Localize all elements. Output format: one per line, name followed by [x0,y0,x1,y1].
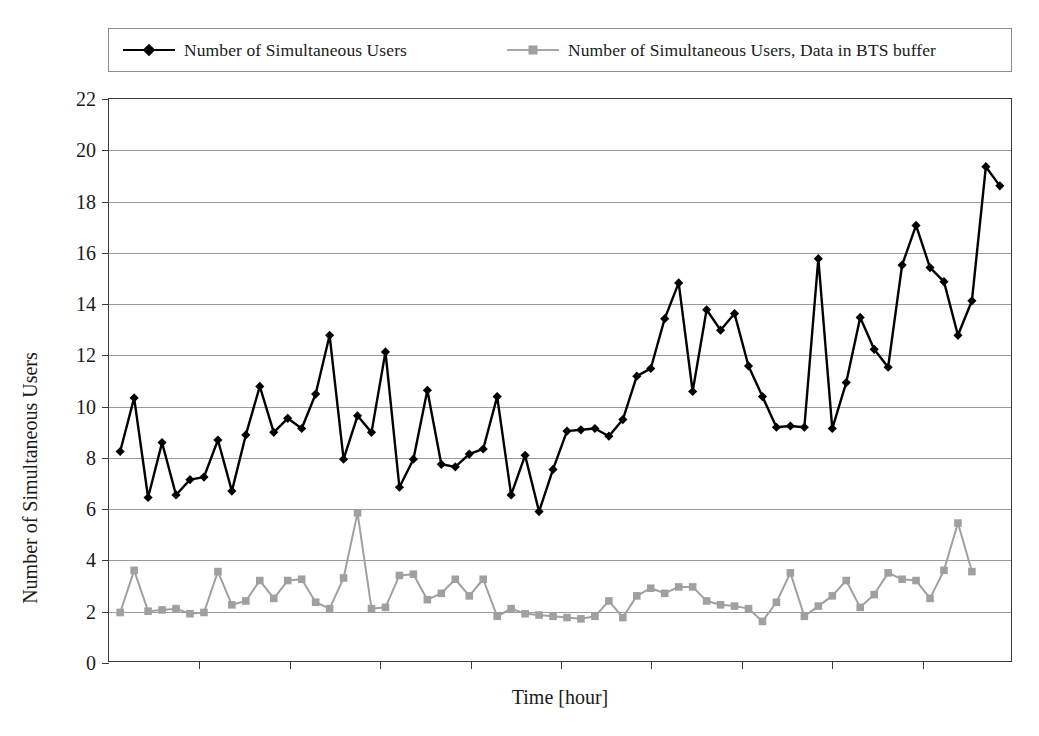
data-point-marker [897,260,906,269]
series-line [120,513,972,622]
data-point-marker [242,597,250,605]
data-point-marker [619,614,627,622]
data-point-marker [856,313,865,322]
y-tick-mark [102,612,109,613]
x-axis-title: Time [hour] [108,686,1012,709]
y-tick-label: 22 [76,88,96,111]
data-point-marker [130,393,139,402]
legend-entry-simultaneous-users: Number of Simultaneous Users [123,29,407,71]
legend-label-bts-buffer: Number of Simultaneous Users, Data in BT… [568,40,936,61]
data-point-marker [912,577,920,585]
data-point-marker [227,487,236,496]
y-tick-mark [102,253,109,254]
data-point-marker [493,613,501,621]
data-point-marker [158,606,166,614]
y-tick-mark [102,304,109,305]
y-tick-label: 6 [86,498,96,521]
data-point-marker [745,605,753,613]
data-point-marker [660,314,669,323]
data-point-marker [199,472,208,481]
legend-entry-bts-buffer: Number of Simultaneous Users, Data in BT… [507,29,936,71]
data-point-marker [228,601,236,609]
y-tick-label: 0 [86,652,96,675]
data-point-marker [130,567,138,575]
data-point-marker [256,577,264,585]
data-point-marker [661,590,669,598]
data-point-marker [241,430,250,439]
data-point-marker [284,577,292,585]
x-tick-mark [832,661,833,669]
data-point-marker [270,595,278,603]
data-point-marker [744,361,753,370]
y-tick-mark [102,407,109,408]
data-point-marker [535,611,543,619]
chart-legend: Number of Simultaneous Users Number of S… [108,28,1012,72]
data-point-marker [675,583,683,591]
data-point-marker [549,613,557,621]
y-tick-mark [102,202,109,203]
y-axis-title: Number of Simultaneous Users [12,196,48,736]
data-point-marker [409,455,418,464]
data-point-marker [339,455,348,464]
plot-area: 0246810121416182022 [108,98,1012,662]
y-tick-label: 4 [86,549,96,572]
data-point-marker [954,519,962,527]
y-tick-label: 8 [86,446,96,469]
data-point-marker [395,483,404,492]
series-layer [109,99,1011,661]
series-simultaneous-users [116,162,1005,516]
data-point-marker [786,421,795,430]
data-point-marker [828,592,836,600]
y-tick-label: 10 [76,395,96,418]
data-point-marker [116,609,124,617]
data-point-marker [354,509,362,517]
data-point-marker [814,254,823,263]
data-point-marker [562,427,571,436]
data-point-marker [451,575,459,583]
x-tick-mark [380,661,381,669]
data-point-marker [688,387,697,396]
data-point-marker [605,597,613,605]
data-point-marker [423,386,432,395]
data-point-marker [842,378,851,387]
data-point-marker [438,590,446,598]
data-point-marker [815,602,823,610]
x-tick-mark [290,661,291,669]
data-point-marker [381,347,390,356]
data-point-marker [186,610,194,618]
data-point-marker [326,605,334,613]
data-point-marker [548,465,557,474]
y-tick-label: 16 [76,241,96,264]
data-point-marker [507,490,516,499]
data-point-marker [213,435,222,444]
data-point-marker [689,583,697,591]
y-tick-mark [102,355,109,356]
diamond-marker-icon [123,42,175,58]
data-point-marker [368,605,376,613]
data-point-marker [590,424,599,433]
data-point-marker [773,598,781,606]
data-point-marker [144,607,152,615]
data-point-marker [632,372,641,381]
y-tick-label: 18 [76,190,96,213]
data-point-marker [214,568,222,576]
data-point-marker [731,602,739,610]
legend-marker [528,46,537,55]
data-point-marker [717,601,725,609]
data-point-marker [465,592,473,600]
data-point-marker [968,568,976,576]
legend-marker [143,44,156,57]
x-tick-mark [742,661,743,669]
data-point-marker [255,382,264,391]
x-tick-mark [199,661,200,669]
data-point-marker [758,392,767,401]
legend-label-simultaneous-users: Number of Simultaneous Users [184,40,407,61]
data-point-marker [325,331,334,340]
data-point-marker [787,569,795,577]
data-point-marker [382,604,390,612]
data-point-marker [410,570,418,578]
data-point-marker [703,597,711,605]
data-point-marker [200,609,208,617]
data-point-marker [633,592,641,600]
y-tick-mark [102,509,109,510]
